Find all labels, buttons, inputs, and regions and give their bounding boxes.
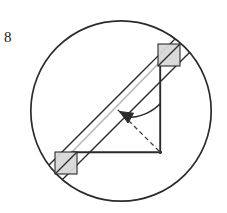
right-angle-square-lower-left xyxy=(55,152,77,174)
geometry-diagram xyxy=(0,0,227,213)
right-angle-square-upper-right xyxy=(158,44,180,66)
figure-container: 8 xyxy=(0,0,227,213)
rotation-arrow xyxy=(120,104,161,123)
figure-number-label: 8 xyxy=(4,30,12,45)
band-upper-edge-line xyxy=(10,0,214,204)
